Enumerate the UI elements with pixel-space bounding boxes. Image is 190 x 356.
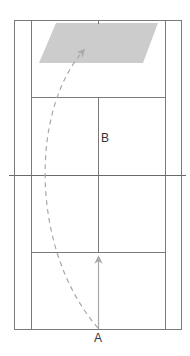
label-a: A — [94, 332, 102, 344]
badminton-court-diagram — [0, 0, 190, 356]
dashed-trajectory-arrow — [45, 50, 98, 328]
label-b: B — [101, 132, 109, 144]
target-zone — [39, 23, 158, 63]
